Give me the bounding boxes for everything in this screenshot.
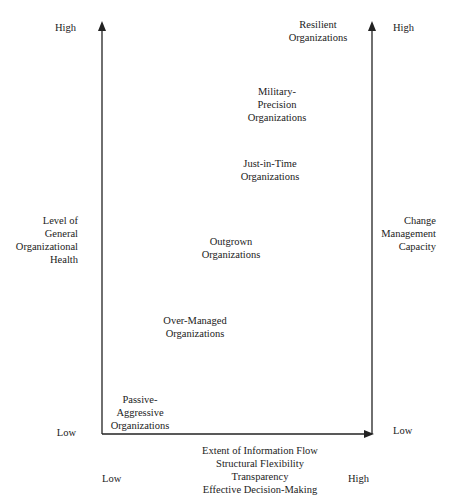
- left-axis-title: Level of General Organizational Health: [10, 214, 78, 266]
- left-axis-low-label: Low: [48, 426, 76, 439]
- right-axis-title: Change Management Capacity: [380, 214, 436, 253]
- bottom-axis-high-label: High: [348, 472, 369, 485]
- org-resilient: Resilient Organizations: [268, 18, 368, 44]
- left-axis-high-label: High: [48, 21, 76, 34]
- right-axis-low-label: Low: [393, 424, 412, 437]
- org-military-precision: Military- Precision Organizations: [242, 85, 312, 124]
- org-just-in-time: Just-in-Time Organizations: [230, 157, 310, 183]
- org-outgrown: Outgrown Organizations: [196, 235, 266, 261]
- right-axis-arrow-icon: [368, 21, 376, 31]
- org-passive-aggressive: Passive- Aggressive Organizations: [104, 393, 176, 432]
- right-axis-high-label: High: [393, 21, 414, 34]
- left-axis-arrow-icon: [98, 21, 106, 31]
- org-over-managed: Over-Managed Organizations: [150, 314, 240, 340]
- bottom-axis-title: Extent of Information Flow Structural Fl…: [180, 444, 340, 496]
- bottom-axis-low-label: Low: [102, 472, 121, 485]
